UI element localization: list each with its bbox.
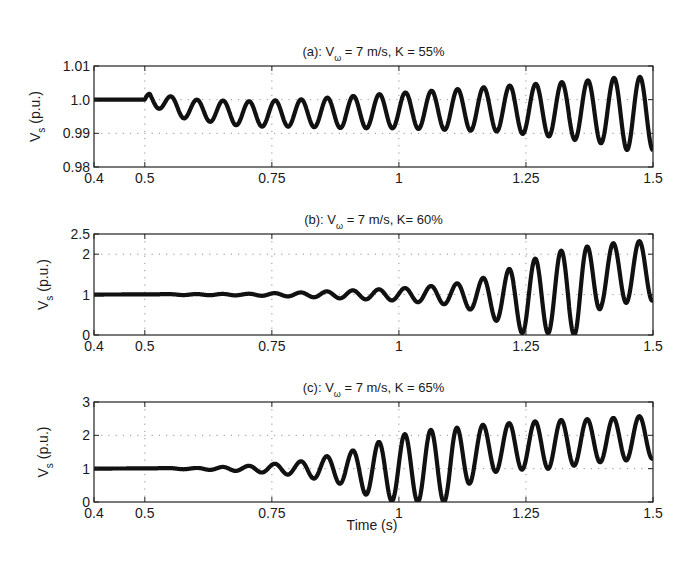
x-tick-label: 1.5 bbox=[643, 338, 663, 354]
x-tick-label: 1.5 bbox=[643, 170, 663, 186]
x-tick-label: 0.5 bbox=[135, 338, 155, 354]
x-tick-label: 0.75 bbox=[258, 170, 285, 186]
x-axis-label: Time (s) bbox=[347, 517, 398, 533]
panel-title: (b): Vω = 7 m/s, K= 60% bbox=[304, 212, 443, 231]
y-tick-label: 0.99 bbox=[63, 125, 90, 141]
y-tick-label: 1.01 bbox=[63, 58, 90, 74]
y-tick-label: 0 bbox=[82, 494, 90, 510]
y-tick-label: 1 bbox=[82, 461, 90, 477]
x-tick-label: 1.25 bbox=[512, 338, 539, 354]
x-tick-label: 0.5 bbox=[135, 170, 155, 186]
y-tick-label: 0 bbox=[82, 327, 90, 343]
y-axis-label: Vs (p.u.) bbox=[35, 259, 55, 310]
y-tick-label: 1 bbox=[82, 287, 90, 303]
x-tick-label: 0.5 bbox=[135, 505, 155, 521]
x-tick-label: 1.5 bbox=[643, 505, 663, 521]
y-tick-label: 2 bbox=[82, 246, 90, 262]
x-tick-label: 1 bbox=[395, 338, 403, 354]
vs-waveform bbox=[94, 416, 653, 502]
panel-c: (c): Vω = 7 m/s, K = 65%0.40.50.7511.251… bbox=[35, 380, 663, 521]
panel-title: (a): Vω = 7 m/s, K = 55% bbox=[302, 44, 445, 63]
y-tick-label: 3 bbox=[82, 394, 90, 410]
x-tick-label: 1 bbox=[395, 170, 403, 186]
x-tick-label: 1.25 bbox=[512, 505, 539, 521]
y-tick-label: 1.0 bbox=[71, 92, 91, 108]
x-tick-label: 0.75 bbox=[258, 505, 285, 521]
y-axis-label: Vs (p.u.) bbox=[35, 427, 55, 478]
panel-a: (a): Vω = 7 m/s, K = 55%0.40.50.7511.251… bbox=[27, 44, 663, 186]
x-tick-label: 0.75 bbox=[258, 338, 285, 354]
y-tick-label: 0.98 bbox=[63, 159, 90, 175]
figure: (a): Vω = 7 m/s, K = 55%0.40.50.7511.251… bbox=[0, 0, 699, 567]
vs-waveform bbox=[94, 77, 653, 150]
panel-b: (b): Vω = 7 m/s, K= 60%0.40.50.7511.251.… bbox=[35, 212, 663, 354]
vs-waveform bbox=[94, 241, 653, 335]
y-tick-label: 2 bbox=[82, 427, 90, 443]
panel-title: (c): Vω = 7 m/s, K = 65% bbox=[303, 380, 445, 399]
x-tick-label: 1.25 bbox=[512, 170, 539, 186]
y-tick-label: 2.5 bbox=[71, 226, 91, 242]
y-axis-label: Vs (p.u.) bbox=[27, 91, 47, 142]
